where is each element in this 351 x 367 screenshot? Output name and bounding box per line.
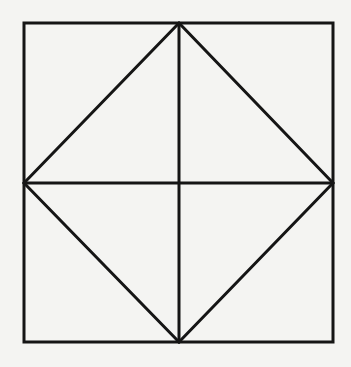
diamond-edge-top-right xyxy=(179,23,333,183)
square-with-inscribed-diamond xyxy=(0,0,351,367)
geometry-figure xyxy=(0,0,351,367)
line-segments xyxy=(24,23,333,342)
diamond-edge-bottom-left xyxy=(24,183,179,342)
diamond-edge-top-left xyxy=(24,23,179,183)
diamond-edge-bottom-right xyxy=(179,183,333,342)
